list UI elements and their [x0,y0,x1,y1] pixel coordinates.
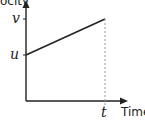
t-label: t [101,104,107,120]
velocity-line [26,19,105,55]
velocity-time-graph: Velocity v u t Time [0,0,145,124]
x-axis-arrow-icon [120,98,128,105]
y-axis-label: Velocity [0,0,29,8]
v-label: v [12,10,20,26]
x-axis-label: Time [120,105,145,119]
u-label: u [10,46,19,62]
